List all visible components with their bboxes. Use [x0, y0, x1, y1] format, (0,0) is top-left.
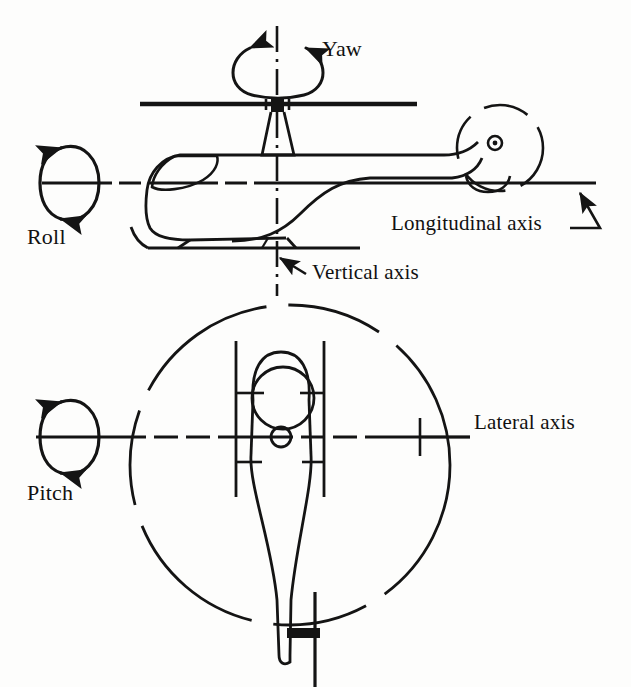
label-vertical-axis: Vertical axis — [312, 260, 419, 285]
tail-rotor-hub-center — [493, 141, 498, 146]
cabin-fuselage-outline — [146, 155, 288, 240]
tail-boom-tip — [279, 655, 290, 664]
vertical-axis-callout-line — [280, 258, 306, 274]
label-pitch: Pitch — [27, 480, 73, 506]
figure-canvas: Yaw Roll Pitch Longitudinal axis Vertica… — [0, 0, 631, 687]
cabin-dome — [252, 367, 314, 429]
tail-rotor-hub-block — [287, 628, 320, 638]
longitudinal-axis-callout-line — [570, 193, 600, 228]
label-lateral-axis: Lateral axis — [474, 410, 575, 435]
landing-skid-front-curve — [131, 227, 148, 248]
skid-strut-rear — [287, 238, 296, 248]
label-roll: Roll — [27, 224, 66, 250]
cabin-side-right — [309, 400, 311, 455]
label-longitudinal-axis: Longitudinal axis — [391, 211, 542, 236]
side-view — [40, 26, 600, 296]
tail-boom-upper — [288, 142, 478, 155]
label-yaw: Yaw — [322, 36, 362, 62]
helicopter-axes-diagram — [0, 0, 631, 687]
top-view — [36, 305, 470, 687]
rotor-hub-block — [271, 97, 284, 112]
